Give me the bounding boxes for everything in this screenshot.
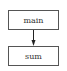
node-label: main xyxy=(23,16,43,25)
node-main[interactable]: main xyxy=(8,10,59,30)
node-label: sum xyxy=(25,52,42,61)
node-sum[interactable]: sum xyxy=(8,46,59,66)
